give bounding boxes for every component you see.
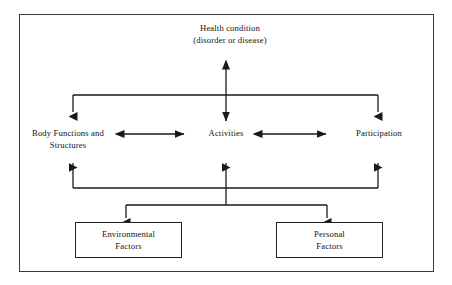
- health-condition-line1: Health condition: [200, 23, 260, 33]
- node-activities: Activities: [188, 128, 264, 140]
- node-personal-factors: Personal Factors: [276, 222, 383, 258]
- body-functions-line1: Body Functions and: [32, 128, 104, 138]
- participation-label: Participation: [356, 128, 402, 138]
- icf-diagram-page: Health condition (disorder or disease) B…: [0, 0, 452, 285]
- environmental-factors-line2: Factors: [115, 240, 141, 252]
- environmental-factors-line1: Environmental: [102, 228, 155, 240]
- personal-factors-line2: Factors: [316, 240, 342, 252]
- node-health-condition: Health condition (disorder or disease): [150, 23, 310, 46]
- node-participation: Participation: [334, 128, 424, 140]
- node-environmental-factors: Environmental Factors: [75, 222, 182, 258]
- node-body-functions-and-structures: Body Functions and Structures: [14, 128, 122, 151]
- activities-label: Activities: [209, 128, 244, 138]
- body-functions-line2: Structures: [50, 140, 86, 150]
- health-condition-line2: (disorder or disease): [193, 35, 266, 45]
- personal-factors-line1: Personal: [314, 228, 345, 240]
